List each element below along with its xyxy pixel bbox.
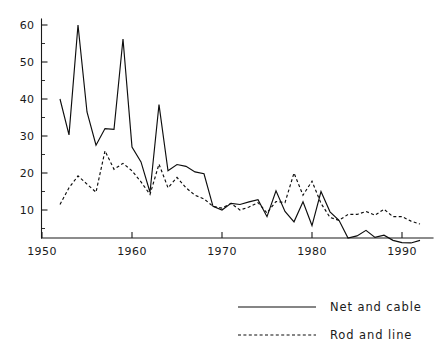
x-tick-label: 1990 — [387, 245, 417, 258]
x-tick-label: 1970 — [207, 245, 237, 258]
x-tick-label: 1950 — [27, 245, 57, 258]
y-axis-ticks — [42, 25, 48, 229]
y-axis: 102030405060 — [20, 19, 48, 238]
chart-legend: Net and cableRod and line — [238, 300, 422, 342]
series-line-rod-and-line — [60, 151, 420, 224]
y-axis-tick-labels: 102030405060 — [20, 19, 35, 217]
x-tick-label: 1960 — [117, 245, 147, 258]
chart-container: 102030405060 19501960197019801990 Net an… — [0, 0, 444, 349]
plot-area — [60, 25, 420, 243]
y-tick-label: 40 — [20, 93, 35, 106]
x-axis-tick-labels: 19501960197019801990 — [27, 245, 417, 258]
y-tick-label: 10 — [20, 204, 35, 217]
y-tick-label: 30 — [20, 130, 35, 143]
legend-label: Rod and line — [330, 328, 412, 342]
y-tick-label: 50 — [20, 56, 35, 69]
legend-label: Net and cable — [330, 300, 422, 314]
x-axis: 19501960197019801990 — [27, 232, 433, 258]
y-tick-label: 60 — [20, 19, 35, 32]
line-chart-figure: 102030405060 19501960197019801990 Net an… — [0, 0, 444, 349]
x-tick-label: 1980 — [297, 245, 327, 258]
y-tick-label: 20 — [20, 167, 35, 180]
